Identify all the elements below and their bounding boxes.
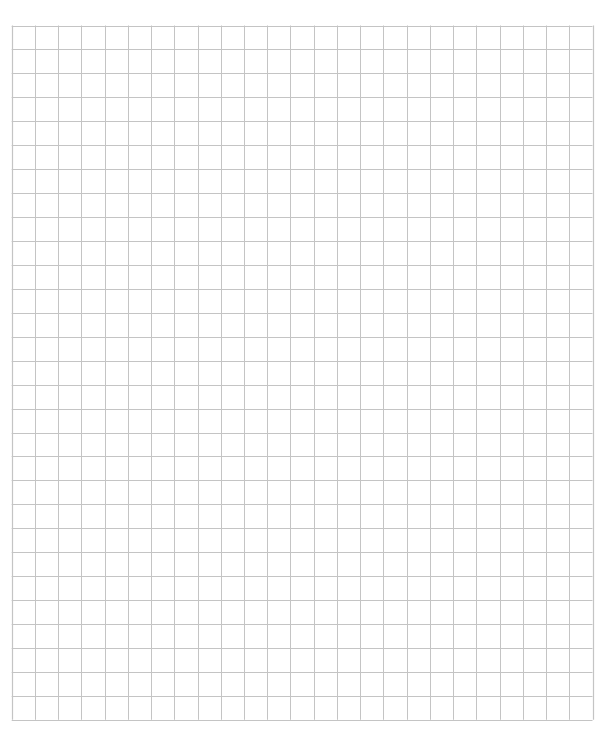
graph-paper-grid — [0, 0, 604, 729]
